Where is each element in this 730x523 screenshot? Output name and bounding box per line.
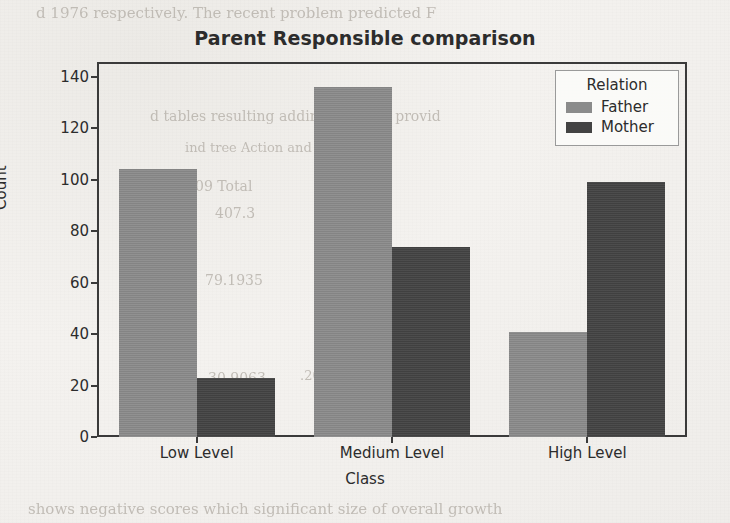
y-axis-tick-mark [91, 282, 97, 284]
y-axis-tick-label: 0 [25, 428, 89, 446]
legend-title: Relation [564, 76, 670, 94]
bar-high-level-mother [587, 182, 665, 437]
bar-high-level-father [509, 332, 587, 437]
y-axis-tick-label: 60 [25, 274, 89, 292]
x-axis-tick-mark [391, 437, 393, 443]
bar-chart-figure: Parent Responsible comparison Count 0204… [0, 0, 730, 523]
x-axis-tick-label: High Level [548, 444, 627, 462]
chart-title: Parent Responsible comparison [0, 27, 730, 49]
y-axis-tick-mark [91, 127, 97, 129]
legend-entry-mother: Mother [566, 118, 670, 136]
y-axis-tick-label: 100 [25, 171, 89, 189]
y-axis-label: Count [0, 165, 10, 210]
x-axis-tick-label: Medium Level [340, 444, 444, 462]
y-axis-tick-label: 80 [25, 222, 89, 240]
bar-low-level-mother [197, 378, 275, 437]
legend-entries: FatherMother [564, 98, 670, 136]
x-axis-label: Class [0, 470, 730, 488]
legend-swatch-icon [566, 102, 592, 113]
legend-swatch-icon [566, 122, 592, 133]
bar-medium-level-father [314, 87, 392, 437]
scanned-page-background: d 1976 respectively. The recent problem … [0, 0, 730, 523]
x-axis-tick-mark [586, 437, 588, 443]
bar-medium-level-mother [392, 247, 470, 437]
y-axis-tick-mark [91, 179, 97, 181]
y-axis-tick-mark [91, 436, 97, 438]
legend-label: Father [601, 98, 648, 116]
y-axis-tick-mark [91, 76, 97, 78]
x-axis-tick-label: Low Level [160, 444, 234, 462]
legend-entry-father: Father [566, 98, 670, 116]
legend-label: Mother [601, 118, 654, 136]
y-axis-tick-label: 20 [25, 377, 89, 395]
y-axis-tick-mark [91, 385, 97, 387]
bar-low-level-father [119, 169, 197, 437]
y-axis-tick-mark [91, 230, 97, 232]
y-axis-tick-label: 120 [25, 119, 89, 137]
y-axis-tick-mark [91, 333, 97, 335]
legend: Relation FatherMother [555, 70, 679, 146]
y-axis-tick-label: 140 [25, 68, 89, 86]
x-axis-tick-mark [196, 437, 198, 443]
y-axis-tick-label: 40 [25, 325, 89, 343]
